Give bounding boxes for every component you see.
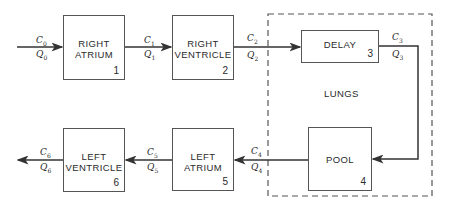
flow-label-c0: C0 <box>36 35 47 49</box>
flow-label-q2: Q2 <box>247 50 258 64</box>
subscript: 4 <box>258 151 262 158</box>
subscript: 1 <box>151 40 155 47</box>
block-number: 3 <box>367 48 373 59</box>
block-label: ATRIUM <box>64 49 124 60</box>
block-label: ATRIUM <box>173 162 233 173</box>
subscript: 6 <box>47 167 51 174</box>
block-right-atrium: RIGHT ATRIUM 1 <box>63 15 125 80</box>
subscript: 0 <box>43 54 47 61</box>
subscript: 6 <box>47 152 51 159</box>
c-symbol: C <box>36 35 43 45</box>
c-symbol: C <box>144 35 151 45</box>
block-right-ventricle: RIGHT VENTRICLE 2 <box>172 15 234 80</box>
c-symbol: C <box>247 33 254 43</box>
subscript: 2 <box>254 55 258 62</box>
block-label: RIGHT <box>64 38 124 49</box>
flow-label-q3: Q3 <box>392 49 403 63</box>
subscript: 3 <box>399 54 403 61</box>
block-pool: POOL 4 <box>308 127 372 191</box>
flow-label-q5: Q5 <box>147 162 158 176</box>
flow-label-c1: C1 <box>144 35 155 49</box>
block-left-ventricle: LEFT VENTRICLE 6 <box>63 128 125 192</box>
lungs-label: LUNGS <box>324 88 359 99</box>
subscript: 3 <box>399 37 403 44</box>
c-symbol: C <box>251 146 258 156</box>
flow-label-q6: Q6 <box>40 162 51 176</box>
block-label: LEFT <box>173 151 233 162</box>
subscript: 4 <box>258 167 262 174</box>
flow-label-c3: C3 <box>392 32 403 46</box>
flow-label-c5: C5 <box>147 147 158 161</box>
block-number: 6 <box>113 177 119 188</box>
flow-label-q1: Q1 <box>144 49 155 63</box>
block-label: RIGHT <box>173 38 233 49</box>
block-delay: DELAY 3 <box>301 30 379 63</box>
c-symbol: C <box>147 147 154 157</box>
subscript: 2 <box>254 38 258 45</box>
subscript: 5 <box>154 152 158 159</box>
block-label: LEFT <box>64 151 124 162</box>
flow-label-c4: C4 <box>251 146 262 160</box>
flow-label-c6: C6 <box>40 147 51 161</box>
c-symbol: C <box>392 32 399 42</box>
flow-label-q0: Q0 <box>36 49 47 63</box>
subscript: 1 <box>151 54 155 61</box>
c-symbol: C <box>40 147 47 157</box>
subscript: 0 <box>43 40 47 47</box>
block-label: POOL <box>309 154 371 165</box>
block-number: 1 <box>113 65 119 76</box>
subscript: 5 <box>154 167 158 174</box>
block-number: 4 <box>360 176 366 187</box>
block-label: VENTRICLE <box>64 162 124 173</box>
block-left-atrium: LEFT ATRIUM 5 <box>172 128 234 191</box>
flow-label-q4: Q4 <box>251 162 262 176</box>
block-number: 2 <box>222 65 228 76</box>
block-label: VENTRICLE <box>173 49 233 60</box>
arrow-c3 <box>373 46 418 159</box>
block-number: 5 <box>222 176 228 187</box>
flow-label-c2: C2 <box>247 33 258 47</box>
